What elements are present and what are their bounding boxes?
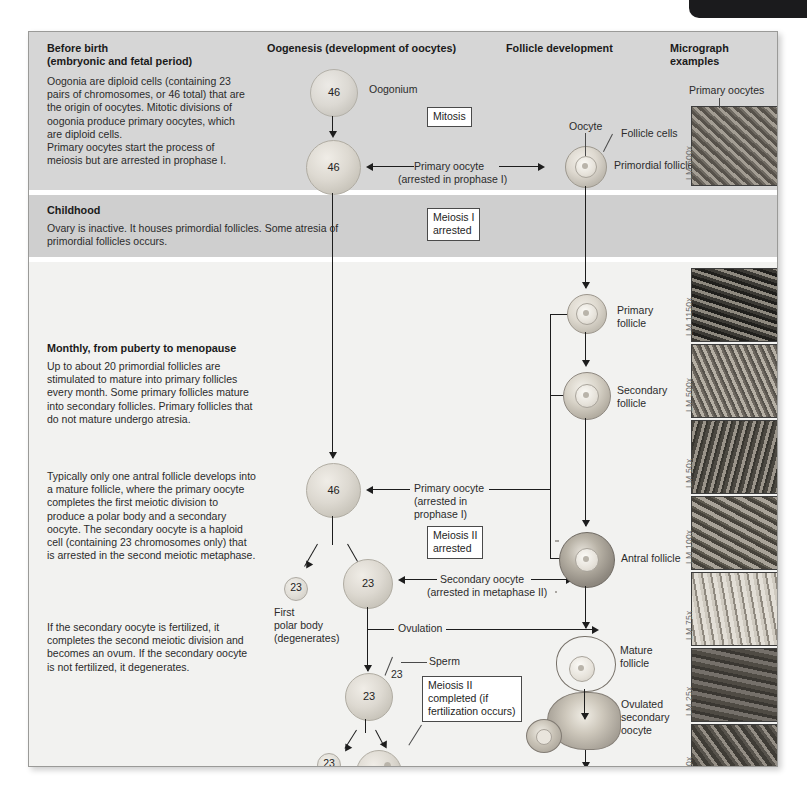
page-corner-artifact xyxy=(689,0,807,18)
follicle-terminal-stages xyxy=(28,31,776,765)
